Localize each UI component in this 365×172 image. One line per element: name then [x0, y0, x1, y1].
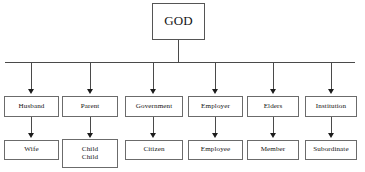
arrowhead-down-1: [28, 89, 34, 94]
connector-mid-6: [331, 117, 332, 134]
node-level1-5-label: Elders: [264, 103, 283, 111]
connector-mid-4: [215, 117, 216, 134]
connector-mid-1: [31, 117, 32, 134]
arrowhead-mid-1: [28, 133, 34, 138]
arrowhead-down-3: [150, 89, 156, 94]
node-level2-4[interactable]: Employee: [188, 140, 243, 160]
arrowhead-mid-5: [270, 133, 276, 138]
org-chart-diagram: GOD Husband Parent Government Employer E…: [0, 0, 365, 172]
arrowhead-down-6: [328, 89, 334, 94]
node-level1-6-label: Institution: [316, 103, 346, 111]
connector-drop-3: [153, 62, 154, 90]
node-level1-3[interactable]: Government: [125, 96, 183, 117]
arrowhead-down-5: [270, 89, 276, 94]
arrowhead-down-2: [87, 89, 93, 94]
node-level1-1[interactable]: Husband: [4, 96, 59, 117]
node-god-label: GOD: [164, 14, 192, 29]
node-level2-3[interactable]: Citizen: [125, 140, 183, 160]
node-level2-5[interactable]: Member: [247, 140, 299, 160]
node-level1-5[interactable]: Elders: [247, 96, 299, 117]
connector-mid-2: [90, 117, 91, 134]
node-level2-3-label: Citizen: [143, 146, 164, 154]
node-level2-5-label: Member: [261, 146, 286, 154]
node-level2-2-label: Child Child: [82, 146, 98, 162]
connector-drop-6: [331, 62, 332, 90]
arrowhead-down-4: [212, 89, 218, 94]
node-level1-4[interactable]: Employer: [188, 96, 243, 117]
node-level1-4-label: Employer: [201, 103, 230, 111]
connector-mid-3: [153, 117, 154, 134]
connector-drop-5: [273, 62, 274, 90]
node-level1-6[interactable]: Institution: [305, 96, 357, 117]
node-level1-1-label: Husband: [19, 103, 45, 111]
node-level2-2[interactable]: Child Child: [62, 139, 118, 168]
connector-horizontal-bus: [5, 62, 355, 63]
node-level2-4-label: Employee: [201, 146, 231, 154]
connector-drop-1: [31, 62, 32, 90]
arrowhead-mid-3: [150, 133, 156, 138]
node-god[interactable]: GOD: [152, 3, 205, 40]
node-level2-1[interactable]: Wife: [4, 140, 59, 160]
node-level2-6[interactable]: Subordinate: [305, 140, 357, 160]
arrowhead-mid-6: [328, 133, 334, 138]
node-level1-2[interactable]: Parent: [62, 96, 118, 117]
connector-drop-2: [90, 62, 91, 90]
node-level2-1-label: Wife: [24, 146, 38, 154]
node-level1-2-label: Parent: [81, 103, 100, 111]
arrowhead-mid-2: [87, 133, 93, 138]
arrowhead-mid-4: [212, 133, 218, 138]
connector-root-stem: [178, 40, 179, 62]
connector-mid-5: [273, 117, 274, 134]
connector-drop-4: [215, 62, 216, 90]
node-level2-6-label: Subordinate: [313, 146, 348, 154]
node-level1-3-label: Government: [136, 103, 172, 111]
